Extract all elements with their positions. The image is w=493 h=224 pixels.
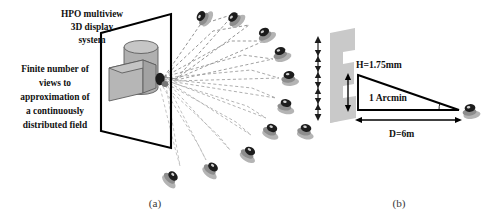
frustum-1	[164, 14, 234, 79]
angle-label: 1 Arcmin	[369, 92, 408, 103]
figure-container: HPO multiview 3D display system Finite n…	[0, 0, 493, 224]
panel-a-desc-line-1: Finite number of	[21, 64, 89, 74]
ruler-arrow-bottom	[315, 114, 322, 121]
observer-figure	[296, 122, 317, 141]
panel-a-title-line-2: 3D display	[71, 22, 114, 32]
observer-figure	[160, 168, 183, 191]
height-dimension-arrow	[345, 73, 351, 112]
distance-dimension-arrow	[355, 117, 462, 123]
observer-figure	[276, 98, 296, 116]
observer-figure	[200, 159, 223, 182]
height-label: H=1.75mm	[356, 59, 402, 70]
panel-a-title-line-3: system	[78, 35, 105, 45]
observer-figure	[281, 70, 300, 86]
vertical-scale-ruler	[315, 36, 322, 121]
figure-canvas: HPO multiview 3D display system Finite n…	[0, 0, 493, 224]
panel-a-title-line-1: HPO multiview	[61, 9, 123, 19]
observer-figure	[193, 6, 215, 29]
observer-figure	[255, 24, 278, 46]
observer-figure	[260, 121, 282, 141]
ruler-tick-4	[315, 98, 321, 110]
ruler-arrow-top	[315, 36, 322, 43]
observer-figure	[225, 8, 248, 31]
panel-a-caption: (a)	[149, 197, 162, 210]
panel-a: HPO multiview 3D display system Finite n…	[20, 6, 316, 210]
panel-a-desc-line-5: distributed field	[23, 120, 88, 130]
snellen-letter-e	[330, 28, 356, 123]
observer-figure	[271, 44, 292, 64]
observer-figure	[238, 144, 261, 166]
panel-b-caption: (b)	[392, 197, 405, 210]
panel-a-desc-line-2: views to	[39, 78, 71, 88]
frustum-6	[164, 79, 276, 98]
ruler-tick-2	[315, 66, 321, 78]
distance-label: D=6m	[389, 128, 414, 139]
panel-a-desc-line-3: approximation of	[20, 92, 90, 102]
panel-b: H=1.75mm 1 Arcmin D=6m (b)	[315, 28, 481, 210]
ruler-tick-1	[315, 50, 321, 62]
frustum-2	[164, 25, 249, 79]
panel-a-desc-line-4: a continuously	[26, 106, 84, 116]
ruler-tick-3	[315, 82, 321, 94]
observer-figure	[462, 103, 482, 120]
